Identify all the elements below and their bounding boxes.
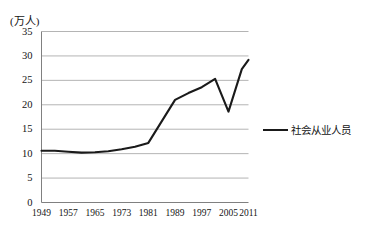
data-series xyxy=(42,60,249,153)
y-tick-label: 15 xyxy=(11,124,33,135)
y-tick-label: 30 xyxy=(11,51,33,62)
legend-label-0: 社会从业人员 xyxy=(291,122,351,137)
x-tick-label: 1965 xyxy=(81,209,109,219)
y-tick-label: 0 xyxy=(11,198,33,209)
y-tick-label: 25 xyxy=(11,75,33,86)
y-tick-label: 10 xyxy=(11,149,33,160)
x-tick-label: 1973 xyxy=(108,209,136,219)
x-tick-label: 1957 xyxy=(54,209,82,219)
gridlines xyxy=(42,32,249,179)
y-tick-label: 20 xyxy=(11,100,33,111)
x-tick-label: 1989 xyxy=(161,209,189,219)
y-tick-label: 5 xyxy=(11,173,33,184)
x-tick-label: 1949 xyxy=(28,209,56,219)
series-line-0 xyxy=(42,60,249,153)
chart-legend: 社会从业人员 xyxy=(263,122,351,137)
axis-lines xyxy=(42,32,249,203)
x-tick-label: 2011 xyxy=(235,209,263,219)
y-tick-label: 35 xyxy=(11,27,33,38)
plot-area xyxy=(0,0,367,239)
legend-line-marker xyxy=(263,129,288,131)
x-tick-label: 1981 xyxy=(134,209,162,219)
line-chart: (万人) 35302520151050 19491957196519731981… xyxy=(0,0,367,239)
x-tick-label: 1997 xyxy=(188,209,216,219)
